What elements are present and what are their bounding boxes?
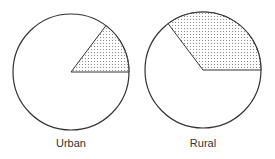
urban-label: Urban <box>56 137 86 149</box>
pie-charts: Urban Rural <box>0 0 275 159</box>
rural-pie: Rural <box>145 12 261 149</box>
rural-label: Rural <box>190 137 216 149</box>
urban-pie: Urban <box>13 14 129 149</box>
